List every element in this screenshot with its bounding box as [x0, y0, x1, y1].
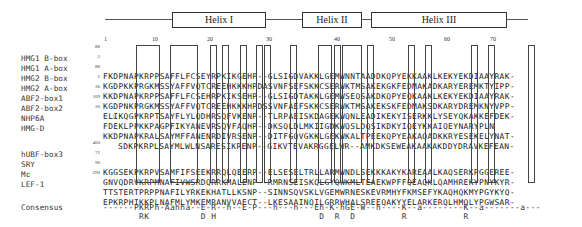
conserved-column-box: [425, 45, 432, 183]
start-position: 290: [78, 170, 100, 175]
ruler-tick: 20: [207, 36, 213, 42]
sequence: ELIKQGPKRPTSAYFLYLQDHRSQFVKENP--TLRPAEIS…: [103, 112, 515, 121]
sequence: KGDPKKPRGKMSSYAFFVQTCREEHKKKHPDASVNFSEFS…: [103, 82, 515, 91]
sequence: KKDPNAPKRPPSAFFLFCSEHRPKIKSEHP--GLSIGDTA…: [103, 92, 515, 101]
ruler-tick: 30: [266, 36, 272, 42]
alignment-row: LEF-1 290 EPKRPHIKKPLNAFMLYMKEMRANVVAECT…: [0, 171, 8, 182]
ruler-tick: 10: [152, 36, 158, 42]
conserved-column-box: [342, 45, 362, 183]
sequence-name: ABF2-box1: [21, 94, 63, 103]
sequence-name: HMG-D: [21, 124, 44, 133]
sequence-name: LEF-1: [21, 180, 44, 189]
conserved-column-box: [318, 45, 332, 183]
conserved-column-box: [240, 45, 247, 183]
sequence-name: ABF2-box2: [21, 104, 63, 113]
conserved-column-box: [264, 45, 271, 183]
helix-3-box: Helix III: [371, 12, 507, 28]
helix-2-box: Helix II: [302, 12, 362, 28]
conserved-column-box: [471, 45, 478, 183]
sequence: TTSTERTPRPPNAFILYRKEKHATLLKSNP--SINNSQVS…: [103, 188, 515, 197]
coil-line: [506, 19, 528, 20]
sequence: GNVQDRVKRPMNAFIVWSRDQRRKMALENP--RMRNSEIS…: [103, 178, 515, 187]
conserved-column-box: [210, 45, 217, 183]
conserved-column-box: [334, 45, 341, 183]
ruler-tick: 50: [389, 36, 395, 42]
alignment-row: HMG-D 1 SDKPKRPLSAYMLWLNSARESIKRENP--GIK…: [0, 115, 8, 126]
ruler-tick: 40: [334, 36, 340, 42]
sequence-name: NHP6A: [21, 114, 44, 123]
sequence: KGGSEKPKRPVSAMFIFSEEKRRQLQEERP--ELSESELT…: [103, 168, 515, 177]
conserved-column-box: [222, 45, 229, 183]
start-position: 400: [78, 140, 100, 145]
conserved-column-box: [256, 45, 263, 183]
conserved-column-box: [367, 45, 374, 183]
conserved-column-box: [488, 45, 495, 183]
start-position: 20: [78, 104, 100, 109]
sequence-name: HMG2 A-box: [21, 84, 68, 93]
ruler-tick: 60: [444, 36, 450, 42]
conserved-column-box: [290, 45, 297, 183]
sequence-name: HMG1 A-box: [21, 64, 68, 73]
coil-line: [361, 19, 371, 20]
sequence-name: hUBF-box3: [21, 150, 63, 159]
sequence-name: HMG1 B-box: [21, 54, 68, 63]
sequence: KGDPNKPRGKMSSYAFFVQTCREEHKKKHPDSSVNFAEFS…: [103, 102, 515, 111]
start-position: 88: [78, 64, 100, 69]
start-position: 109: [78, 94, 100, 99]
consensus-label: Consensus: [21, 203, 63, 212]
consensus-line-1: ------PKRPh-Aahha--E-R--h--E-P---h---h--…: [103, 203, 541, 212]
ruler-tick: 70: [490, 36, 496, 42]
conserved-column-box: [408, 45, 415, 183]
sequence: KKDPNAPKRALSAYMFFANENRDIVRSENP--DITFGQVG…: [103, 132, 515, 141]
ruler-tick: 1: [104, 36, 107, 42]
start-position: 2: [78, 54, 100, 59]
start-position: 1: [93, 114, 115, 119]
sequence-name: SRY: [21, 160, 35, 169]
sequence-name: Mc: [21, 170, 30, 179]
sequence: FKDPNAPKRPPSAFFLFCSEYRPKIKGEHP--GLSIGDVA…: [103, 72, 515, 81]
start-position: 36: [78, 84, 100, 89]
start-position: 88: [78, 44, 100, 49]
helix-1-box: Helix I: [172, 12, 266, 28]
coil-line: [265, 19, 303, 20]
sequence-name: HMG2 B-box: [21, 74, 68, 83]
sequence: FDEKLPPKKPAGPFIKYANEVRSQVFAQHP--DKSQLDLM…: [103, 122, 494, 131]
coil-line: [105, 19, 173, 20]
conserved-column-box: [136, 45, 160, 183]
consensus-line-2: RK D H D R D R R: [103, 212, 469, 221]
start-position: 96: [78, 160, 100, 165]
start-position: 72: [78, 150, 100, 155]
start-position: 2: [78, 74, 100, 79]
conserved-column-box: [528, 45, 535, 183]
conserved-column-box: [170, 45, 198, 183]
